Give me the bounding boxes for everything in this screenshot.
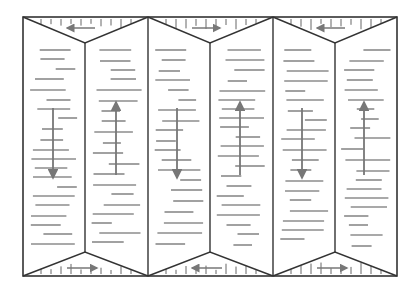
frame-outline [23,17,397,276]
top-fold-triangle [273,17,397,43]
direction-arrows [53,28,364,268]
fold-pattern-diagram [0,0,411,297]
hatch-lines [41,19,381,274]
top-fold-triangle [23,17,148,43]
bottom-fold-triangle [273,252,397,276]
bottom-fold-triangle [148,252,273,276]
diagram-canvas [0,0,411,297]
top-fold-triangle [148,17,273,43]
bottom-fold-triangle [23,252,148,276]
